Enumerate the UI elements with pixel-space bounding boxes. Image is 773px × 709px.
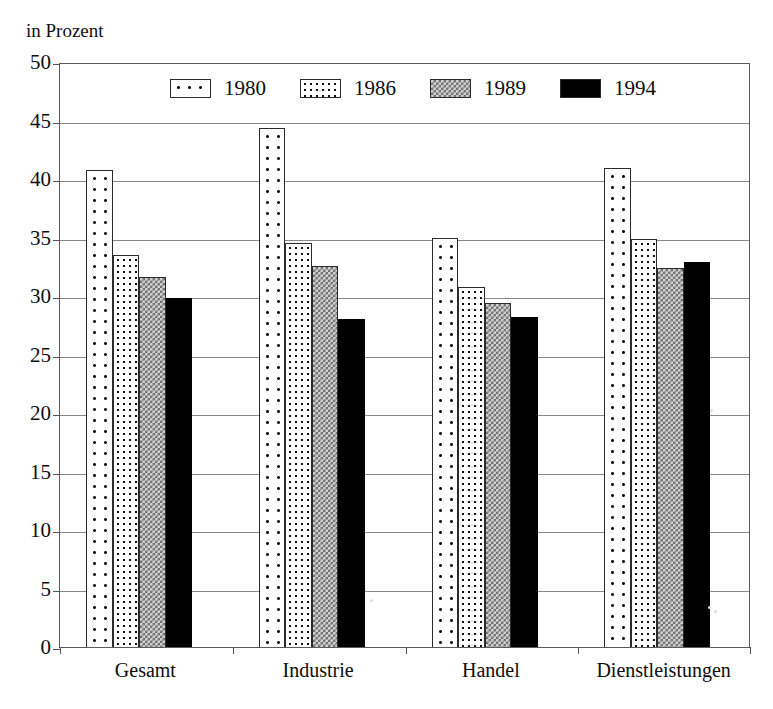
legend-label-1989: 1989: [484, 78, 526, 99]
x-axis-tick: [233, 647, 234, 654]
y-axis-tick: [53, 532, 60, 533]
bar-gesamt-1994: [166, 298, 193, 647]
legend-label-1980: 1980: [224, 78, 266, 99]
plot-area: 1980198619891994: [59, 63, 750, 648]
y-axis-tick: [53, 591, 60, 592]
chart-legend: 1980198619891994: [170, 78, 690, 99]
bar-gesamt-1980: [86, 170, 113, 647]
y-axis-label: 15: [11, 460, 51, 485]
scan-speckle: [370, 599, 373, 602]
legend-item-1986: 1986: [300, 78, 396, 99]
y-axis-tick: [53, 415, 60, 416]
x-axis-tick: [578, 647, 579, 654]
legend-swatch-1986: [300, 79, 341, 98]
gridline: [60, 181, 749, 182]
bar-industrie-1989: [312, 266, 339, 647]
scan-speckle: [714, 610, 717, 613]
x-axis-tick: [406, 647, 407, 654]
bar-industrie-1980: [259, 128, 286, 647]
y-axis-tick: [53, 298, 60, 299]
bar-gesamt-1986: [113, 255, 140, 647]
x-axis-tick: [750, 647, 751, 654]
bar-handel-1980: [432, 238, 459, 648]
y-axis-tick: [53, 181, 60, 182]
y-axis-tick: [53, 123, 60, 124]
y-axis-label: 25: [11, 343, 51, 368]
clipped-title: ...beschäftigung: [0, 0, 773, 12]
y-axis-label: 30: [11, 284, 51, 309]
y-axis-label: 50: [11, 50, 51, 75]
bar-dienstleistungen-1989: [657, 268, 684, 647]
bar-dienstleistungen-1980: [604, 168, 631, 647]
bar-industrie-1986: [285, 243, 312, 647]
bar-dienstleistungen-1986: [631, 239, 658, 647]
bar-handel-1994: [511, 317, 538, 647]
y-axis-label: 0: [11, 635, 51, 660]
y-axis-tick: [53, 240, 60, 241]
legend-item-1994: 1994: [560, 78, 656, 99]
gridline: [60, 123, 749, 124]
bar-handel-1989: [485, 303, 512, 647]
y-axis-label: 20: [11, 401, 51, 426]
x-axis-tick: [60, 647, 61, 654]
legend-swatch-1980: [170, 79, 211, 98]
axis-unit-label: in Prozent: [26, 20, 104, 42]
x-axis-label-dienstleistungen: Dienstleistungen: [577, 659, 750, 682]
legend-item-1989: 1989: [430, 78, 526, 99]
scan-speckle: [708, 606, 711, 609]
bar-dienstleistungen-1994: [684, 262, 711, 647]
legend-item-1980: 1980: [170, 78, 266, 99]
legend-label-1994: 1994: [614, 78, 656, 99]
y-axis-tick: [53, 64, 60, 65]
x-axis-label-handel: Handel: [405, 659, 578, 682]
y-axis-label: 10: [11, 518, 51, 543]
legend-swatch-1994: [560, 79, 601, 98]
y-axis-label: 35: [11, 226, 51, 251]
y-axis-tick: [53, 357, 60, 358]
bar-gesamt-1989: [139, 277, 166, 647]
y-axis-label: 40: [11, 167, 51, 192]
scan-speckle: [710, 409, 713, 412]
legend-label-1986: 1986: [354, 78, 396, 99]
bar-industrie-1994: [338, 319, 365, 647]
y-axis-tick: [53, 649, 60, 650]
x-axis-label-industrie: Industrie: [232, 659, 405, 682]
y-axis-label: 45: [11, 109, 51, 134]
y-axis-tick: [53, 474, 60, 475]
legend-swatch-1989: [430, 79, 471, 98]
y-axis-label: 5: [11, 577, 51, 602]
bar-handel-1986: [458, 287, 485, 647]
x-axis-label-gesamt: Gesamt: [59, 659, 232, 682]
